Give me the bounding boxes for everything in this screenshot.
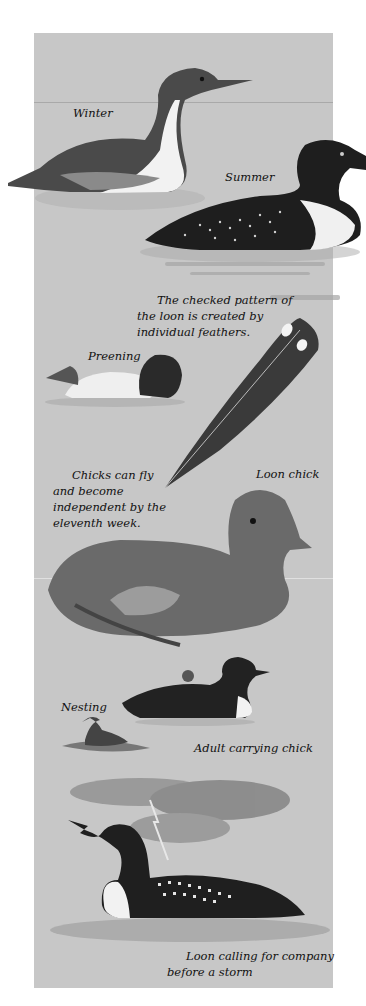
caption-storm-2: before a storm <box>167 964 253 980</box>
caption-chick-note-4: eleventh week. <box>53 515 141 531</box>
caption-chick-note-2: and become <box>53 483 124 499</box>
caption-chick-note-1: Chicks can fly <box>72 467 153 483</box>
winter-loon <box>8 68 253 210</box>
caption-feather-note-3: individual feathers. <box>137 324 250 340</box>
caption-adult-carrying: Adult carrying chick <box>194 740 313 756</box>
caption-feather-note-1: The checked pattern of <box>157 292 292 308</box>
caption-storm-1: Loon calling for company <box>186 948 334 964</box>
feather <box>165 318 319 488</box>
caption-loon-chick: Loon chick <box>256 466 319 482</box>
adult-carrying-chick <box>122 657 270 726</box>
storm-cloud <box>70 778 290 860</box>
caption-nesting: Nesting <box>61 699 107 715</box>
caption-chick-note-3: independent by the <box>53 499 166 515</box>
caption-winter: Winter <box>73 105 113 121</box>
caption-preening: Preening <box>88 348 141 364</box>
caption-feather-note-2: the loon is created by <box>137 308 263 324</box>
caption-summer: Summer <box>225 169 274 185</box>
